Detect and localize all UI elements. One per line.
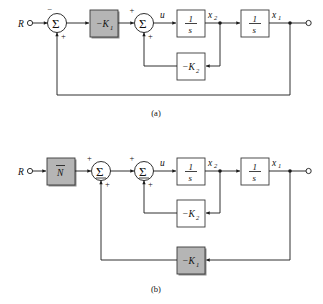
inner-feedback-block-label-b: −K xyxy=(182,209,195,219)
gain-block-label-a: −K xyxy=(96,19,109,29)
output-terminal-circle-b xyxy=(306,168,311,173)
outer-feedback-block-label-b: −K xyxy=(182,256,195,266)
summer1-sign-bottom-b: + xyxy=(105,179,110,189)
integrator2-numerator-b: 1 xyxy=(253,162,258,172)
figure-container: R Σ − + −K 1 Σ + + u 1 s xyxy=(0,0,323,304)
output-terminal-circle-a xyxy=(306,20,311,25)
diagram-a-group: R Σ − + −K 1 Σ + + u 1 s xyxy=(17,4,311,119)
arrowhead-int1-input-b xyxy=(172,169,176,172)
block-diagram-canvas: R Σ − + −K 1 Σ + + u 1 s xyxy=(0,0,323,304)
arrowhead-nbar-input-b xyxy=(42,169,46,172)
arrowhead-k2-input-a xyxy=(206,64,210,67)
caption-a: (a) xyxy=(151,108,161,118)
feedback-block-label-a: −K xyxy=(182,62,195,72)
input-label-b: R xyxy=(17,167,24,177)
arrowhead-int2-input-a xyxy=(236,21,240,24)
summer2-sign-left-a: + xyxy=(130,5,135,15)
signal-label-x1-sub-b: 1 xyxy=(278,162,281,169)
summer2-sign-left-b: + xyxy=(130,153,135,163)
arrowhead-summer2-bottom-a xyxy=(142,33,145,37)
arrowhead-summer2-left-a xyxy=(130,21,134,24)
gain-block-subscript-a: 1 xyxy=(110,24,113,31)
signal-label-x1-sub-a: 1 xyxy=(278,14,281,21)
summer1-sign-top-b: + xyxy=(87,153,92,163)
summer1-sigma-a: Σ xyxy=(52,16,60,31)
input-terminal-circle-a xyxy=(27,20,32,25)
summer2-sign-bottom-a: + xyxy=(148,31,153,41)
input-terminal-circle-b xyxy=(27,168,32,173)
signal-label-x2-b: x xyxy=(207,158,213,168)
arrowhead-summer2-left-b xyxy=(130,169,134,172)
summer1-sign-bottom-a: + xyxy=(61,31,66,41)
integrator2-numerator-a: 1 xyxy=(253,14,258,24)
signal-label-x1-b: x xyxy=(271,158,277,168)
integrator1-denominator-a: s xyxy=(189,25,193,35)
summer1-sign-top-a: − xyxy=(48,4,53,14)
arrowhead-summer2-bottom-b xyxy=(142,181,145,185)
summer2-sigma-b: Σ xyxy=(139,164,147,179)
caption-b: (b) xyxy=(151,284,161,294)
arrowhead-summer1-left-a xyxy=(44,21,48,24)
signal-label-u-a: u xyxy=(160,10,165,20)
arrowhead-k1-input-b xyxy=(206,258,210,261)
arrowhead-int2-input-b xyxy=(236,169,240,172)
arrowhead-summer1-left-b xyxy=(87,169,91,172)
arrowhead-summer1-bottom-b xyxy=(99,181,102,185)
arrowhead-gain-input-a xyxy=(85,21,89,24)
diagram-b-group: R N Σ + + Σ + + u 1 s xyxy=(17,153,311,294)
integrator2-denominator-b: s xyxy=(253,173,257,183)
signal-label-x2-sub-b: 2 xyxy=(214,162,218,169)
signal-label-x2-a: x xyxy=(207,10,213,20)
summer2-sigma-a: Σ xyxy=(139,16,147,31)
arrowhead-int1-input-a xyxy=(172,21,176,24)
summer1-sigma-b: Σ xyxy=(96,164,104,179)
summer2-sign-bottom-b: + xyxy=(148,179,153,189)
arrowhead-k2-input-b xyxy=(206,211,210,214)
integrator1-numerator-a: 1 xyxy=(189,14,194,24)
signal-label-x2-sub-a: 2 xyxy=(214,14,218,21)
integrator1-numerator-b: 1 xyxy=(189,162,194,172)
input-label-a: R xyxy=(17,19,24,29)
arrowhead-summer1-bottom-a xyxy=(55,33,58,37)
integrator2-denominator-a: s xyxy=(253,25,257,35)
signal-label-x1-a: x xyxy=(271,10,277,20)
integrator1-denominator-b: s xyxy=(189,173,193,183)
signal-label-u-b: u xyxy=(160,158,165,168)
outer-feedback-block-subscript-b: 1 xyxy=(196,261,199,268)
nbar-block-label-b: N xyxy=(56,168,64,178)
